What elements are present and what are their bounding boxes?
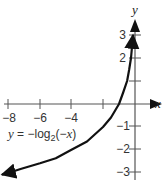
y-axis [129,19,141,180]
equation-label: y = −log2(−x) [6,126,76,143]
y-tick-label-m1: −1 [116,119,130,133]
y-axis-label: y [130,2,138,17]
x-axis [4,99,162,109]
y-tick-label-m3: −3 [116,165,130,179]
x-tick-label-m8: −8 [2,111,16,125]
y-tick-label-3: 3 [119,28,126,42]
x-tick-label-m4: −4 [64,111,78,125]
curve-series [2,35,133,175]
y-tick-label-2: 2 [119,51,126,65]
x-axis-label: x [154,96,161,111]
y-tick-label-m2: −2 [116,142,130,156]
y-axis-arrow-icon [130,19,140,32]
log-graph: −8 −6 −4 3 2 −1 −2 −3 y x y = −log2(−x) [0,0,164,182]
x-tick-label-m6: −6 [33,111,47,125]
